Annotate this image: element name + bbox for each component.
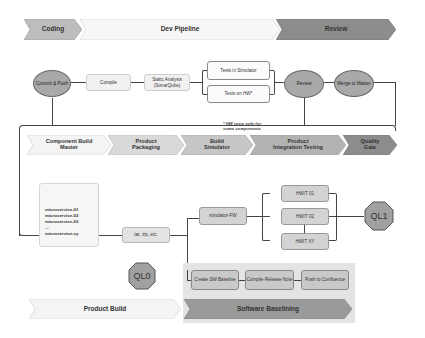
- connector: [70, 82, 86, 83]
- commit-push-node[interactable]: Commit & Push: [33, 70, 71, 97]
- simulator-fw-label: simulator-FW: [209, 213, 236, 218]
- stage-quality-gate: QualityGate: [343, 135, 397, 155]
- connector: [294, 280, 301, 281]
- static-analysis-label: Static Analysis (SonarQube): [145, 77, 189, 88]
- connector: [374, 82, 396, 83]
- hwit-02-step[interactable]: HWIT 02: [281, 208, 329, 225]
- stage-component-build: Component BuildMaster: [27, 135, 111, 155]
- packaging-label: tar, zip, etc.: [134, 232, 158, 237]
- connector: [187, 280, 191, 281]
- hwit-xy-step[interactable]: HWIT XY: [281, 233, 329, 250]
- stage-product-build-label: Product Build: [84, 306, 127, 313]
- tests-simulator-label: Tests in Simulator: [220, 68, 256, 73]
- stage-product-integration-label: ProductIntegration Testing: [273, 139, 323, 151]
- compile-label: Compile: [100, 80, 117, 85]
- loop-connector-corner: [19, 226, 39, 236]
- quality-level-ql1: QL1: [364, 201, 394, 231]
- stage-product-packaging: ProductPackaging: [108, 135, 184, 155]
- connector: [275, 82, 284, 83]
- hwit-bracket-left: [262, 193, 270, 241]
- microservices-box[interactable]: microservice-01 microservice-02 microser…: [39, 183, 99, 247]
- stage-product-packaging-label: ProductPackaging: [132, 139, 160, 151]
- compile-release-note-step[interactable]: Compile Release Note: [245, 270, 294, 290]
- review-label: Review: [296, 81, 311, 86]
- stage-software-baselining: Software Baselining: [184, 299, 352, 319]
- hwit-xy-label: HWIT XY: [295, 239, 314, 244]
- hwit-01-step[interactable]: HWIT 01: [281, 185, 329, 202]
- stage-dev-pipeline: Dev Pipeline: [80, 19, 280, 40]
- push-confluence-step[interactable]: Push to Confluence: [301, 270, 349, 290]
- loop-connector-bottom: [19, 125, 20, 235]
- connector: [187, 218, 199, 219]
- connector: [262, 216, 270, 217]
- connector: [190, 82, 202, 83]
- stage-software-baselining-label: Software Baselining: [237, 306, 299, 313]
- hwit-bracket-right: [329, 193, 337, 241]
- simulator-fw-step[interactable]: simulator-FW: [199, 207, 247, 225]
- stage-component-build-label: Component BuildMaster: [46, 139, 93, 151]
- stage-coding-label: Coding: [42, 26, 64, 33]
- review-node[interactable]: Review: [284, 70, 324, 98]
- ql0-label: QL0: [133, 271, 150, 281]
- connector: [99, 235, 122, 236]
- connector: [329, 216, 364, 217]
- create-sw-baseline-step[interactable]: Create SW Baseline: [191, 270, 239, 290]
- connector: [304, 98, 305, 126]
- commit-push-label: Commit & Push: [36, 81, 68, 86]
- stage-build-simulator-label: BuildSimulator: [204, 139, 230, 151]
- tests-hw-step[interactable]: Tests on HW*: [207, 85, 270, 103]
- compile-step[interactable]: Compile: [86, 74, 131, 91]
- merge-master-node[interactable]: Merge to Master: [334, 70, 374, 97]
- ql1-label: QL1: [370, 211, 387, 221]
- stage-build-simulator: BuildSimulator: [181, 135, 253, 155]
- stage-review: Review: [276, 19, 396, 40]
- connector: [304, 225, 305, 233]
- mask: [17, 236, 23, 266]
- tests-simulator-step[interactable]: Tests in Simulator: [207, 61, 270, 80]
- stage-review-label: Review: [325, 26, 347, 33]
- hwit-01-label: HWIT 01: [296, 191, 314, 196]
- connector: [170, 235, 187, 236]
- packaging-step[interactable]: tar, zip, etc.: [122, 227, 170, 243]
- stage-product-build: Product Build: [29, 299, 181, 319]
- stage-product-integration: ProductIntegration Testing: [250, 135, 346, 155]
- quality-level-ql0: QL0: [128, 262, 156, 290]
- connector: [52, 98, 53, 126]
- stage-coding: Coding: [24, 19, 82, 40]
- connector: [395, 82, 396, 126]
- connector: [131, 82, 144, 83]
- connector: [324, 82, 334, 83]
- compile-release-note-label: Compile Release Note: [247, 277, 293, 282]
- tests-hw-label: Tests on HW*: [225, 91, 253, 96]
- push-confluence-label: Push to Confluence: [305, 277, 345, 282]
- connector: [247, 216, 262, 217]
- microservices-list: microservice-01 microservice-02 microser…: [45, 207, 78, 237]
- static-analysis-step[interactable]: Static Analysis (SonarQube): [144, 74, 190, 91]
- create-sw-baseline-label: Create SW Baseline: [194, 277, 235, 282]
- merge-master-label: Merge to Master: [337, 81, 370, 86]
- stage-quality-gate-label: QualityGate: [361, 139, 380, 151]
- hwit-02-label: HWIT 02: [296, 214, 314, 219]
- stage-dev-pipeline-label: Dev Pipeline: [161, 26, 200, 33]
